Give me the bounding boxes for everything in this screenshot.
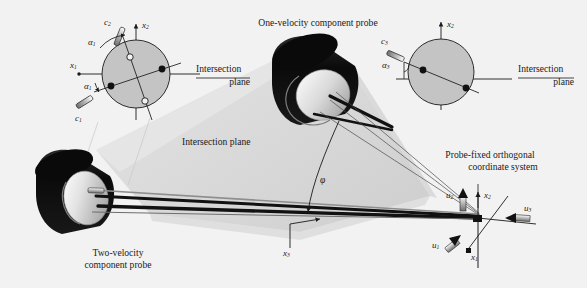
left-inset-alpha-upper-label: α1 [88,37,96,48]
u1-label: u1 [432,240,439,251]
left-inset-dot-c1-b [159,66,166,73]
probe-fixed-label-line1: Probe-fixed orthogonal [405,150,575,161]
probe-fixed-label-line2: coordinate system [418,162,587,173]
left-inset-dot-c1-a [108,83,115,90]
u3-subscript: 3 [529,207,532,213]
right-inset-x2-label: x2 [447,19,454,30]
two-velocity-probe-label-line1: Two-velocity [58,248,178,259]
left-inset-intersection-line1: Intersection [196,64,241,75]
coord-x2-subscript: 2 [488,194,491,200]
two-velocity-probe-label-line2: component probe [58,260,178,271]
x3-subscript: 3 [287,252,290,258]
left-inset-dot-c2-a [127,54,133,60]
intersection-plane-center-label: Intersection plane [182,137,250,148]
right-inset-alpha3-subscript: 3 [387,64,390,70]
left-inset-x2-subscript: 2 [146,24,149,30]
left-inset-alpha-upper-subscript: 1 [93,41,96,47]
left-inset-x1-label: x1 [70,60,77,71]
u3-label: u3 [524,203,531,214]
left-inset-c1-subscript: 1 [79,117,82,123]
left-inset-dot-c2-b [142,98,148,104]
right-inset-x2-subscript: 2 [451,23,454,29]
u2-subscript: 2 [451,194,454,200]
coord-origin [473,215,482,222]
right-inset-intersection-line1: Intersection [518,64,563,75]
left-inset-c2-label: c2 [104,17,111,28]
right-inset-c3-label: c3 [381,36,388,47]
left-inset-intersection-line2: plane [196,77,250,88]
left-inset-alpha-lower-label: α1 [84,81,92,92]
left-inset-x2-label: x2 [142,20,149,31]
right-inset-dot-b [463,85,470,92]
right-inset-intersection-line2: plane [518,77,574,88]
right-inset-c3-subscript: 3 [385,40,388,46]
u1-subscript: 1 [437,244,440,250]
coord-x1-subscript: 1 [475,256,478,262]
left-inset-c1-label: c1 [75,113,82,124]
coord-x1-label: x1 [471,252,478,263]
right-inset-dot-a [420,67,427,74]
left-inset-alpha-lower-subscript: 1 [89,85,92,91]
left-inset-x1-subscript: 1 [74,64,77,70]
phi-label: φ [320,175,325,186]
u2-label: u2 [446,190,453,201]
right-inset-alpha3-label: α3 [382,60,390,71]
x3-label: x3 [283,248,290,259]
one-velocity-probe-label: One-velocity component probe [238,18,398,29]
left-inset-c2-subscript: 2 [108,21,111,27]
figure-canvas: One-velocity component probe Two-velocit… [0,0,587,288]
right-inset-circle [408,39,474,105]
coord-x2-label: x2 [484,190,491,201]
